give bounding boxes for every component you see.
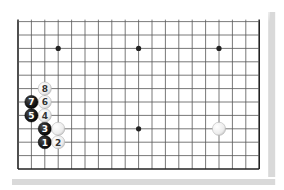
black-stone-7: 7	[25, 95, 38, 108]
move-number: 4	[42, 111, 48, 121]
move-number: 6	[42, 97, 48, 107]
star-point	[136, 126, 141, 131]
move-number: 8	[42, 84, 48, 94]
star-point	[136, 46, 141, 51]
move-number: 5	[28, 111, 34, 121]
black-stone-1: 1	[38, 136, 51, 149]
white-stone	[52, 122, 65, 135]
move-number: 1	[42, 138, 48, 148]
bottom-shadow	[12, 179, 275, 185]
star-point	[56, 46, 61, 51]
top-fade	[0, 0, 270, 22]
go-board-diagram: 12345678	[0, 0, 284, 190]
white-stone-4: 4	[38, 109, 51, 122]
move-number: 3	[42, 124, 48, 134]
go-board: 12345678	[0, 0, 284, 190]
white-stone	[212, 122, 225, 135]
white-stone-8: 8	[38, 82, 51, 95]
star-point	[216, 46, 221, 51]
black-stone-3: 3	[38, 122, 51, 135]
white-stone-6: 6	[38, 95, 51, 108]
right-shadow	[268, 12, 275, 177]
white-stone-2: 2	[52, 136, 65, 149]
board-shadow	[12, 12, 275, 185]
black-stone-5: 5	[25, 109, 38, 122]
move-number: 2	[55, 138, 61, 148]
move-number: 7	[28, 97, 34, 107]
